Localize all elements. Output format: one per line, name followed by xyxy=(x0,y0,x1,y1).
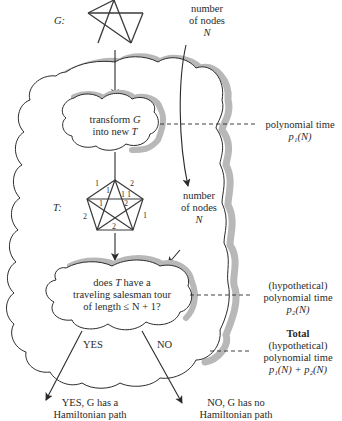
time1-line1: polynomial time xyxy=(254,119,342,131)
time2-line2: polynomial time xyxy=(252,292,342,304)
transform-line1: transform xyxy=(89,114,132,125)
no-branch-label: NO xyxy=(157,339,172,351)
total-title: Total xyxy=(252,328,342,340)
yes-result-line1: YES, G has a xyxy=(44,397,136,409)
t-nodes-line2: of nodes xyxy=(164,202,234,214)
no-result-line2: Hamiltonian path xyxy=(188,409,284,421)
svg-text:2: 2 xyxy=(130,179,134,188)
total-time-label: Total (hypothetical) polynomial time p₁(… xyxy=(252,328,342,376)
total-line1: (hypothetical) xyxy=(252,340,342,352)
t-nodes-label: number of nodes N xyxy=(164,190,234,226)
graph-g-star xyxy=(88,0,143,43)
svg-text:1: 1 xyxy=(95,179,99,188)
time2-line1: (hypothetical) xyxy=(252,280,342,292)
svg-text:1: 1 xyxy=(121,190,125,199)
svg-text:1: 1 xyxy=(99,199,103,208)
svg-text:1: 1 xyxy=(127,190,131,199)
g-nodes-label: number of nodes N xyxy=(172,3,242,39)
svg-text:1: 1 xyxy=(143,211,147,220)
time2-label: (hypothetical) polynomial time p₂(N) xyxy=(252,280,342,316)
time1-line2: p₁(N) xyxy=(254,131,342,143)
transform-text: transform G into new T xyxy=(72,114,158,138)
svg-text:2: 2 xyxy=(124,199,128,208)
g-nodes-line2: of nodes xyxy=(172,15,242,27)
yes-result-line2: Hamiltonian path xyxy=(44,409,136,421)
g-nodes-line1: number xyxy=(172,3,242,15)
time1-label: polynomial time p₁(N) xyxy=(254,119,342,143)
time2-line3: p₂(N) xyxy=(252,304,342,316)
transform-line2: into new xyxy=(93,126,132,137)
decision-text: does T have a traveling salesman tour of… xyxy=(62,277,182,313)
yes-branch-label: YES xyxy=(83,339,103,351)
total-line3: p₁(N) + p₂(N) xyxy=(252,364,342,376)
decision-line2: traveling salesman tour xyxy=(62,289,182,301)
t-nodes-var: N xyxy=(164,214,234,226)
graph-g-label: G: xyxy=(54,15,65,27)
svg-text:1: 1 xyxy=(106,186,110,195)
transform-var-t: T xyxy=(132,126,138,137)
no-result: NO, G has no Hamiltonian path xyxy=(188,397,284,421)
yes-result: YES, G has a Hamiltonian path xyxy=(44,397,136,421)
decision-line1-pre: does xyxy=(93,277,115,288)
g-nodes-var: N xyxy=(172,27,242,39)
graph-t-label: T: xyxy=(53,202,62,214)
total-line2: polynomial time xyxy=(252,352,342,364)
svg-text:2: 2 xyxy=(83,212,87,221)
no-result-line1: NO, G has no xyxy=(188,397,284,409)
t-nodes-line1: number xyxy=(164,190,234,202)
transform-var-g: G xyxy=(133,114,141,125)
svg-text:2: 2 xyxy=(112,222,116,231)
decision-line3: of length ≤ N + 1? xyxy=(62,301,182,313)
decision-line1-post: have a xyxy=(121,277,151,288)
